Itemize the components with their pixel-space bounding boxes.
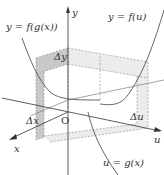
y-axis-arrow-icon [66,6,70,13]
label-outer: y = f(u) [107,11,146,22]
label-inner: u = g(x) [103,157,144,168]
label-delta-x: Δx [25,115,39,126]
delta-y-band-back [68,48,148,78]
label-delta-y: Δy [53,51,67,62]
curve-y-f-g-x [22,38,100,100]
u-axis-arrow-icon [154,127,162,132]
delta-u-floor-band [44,124,148,142]
label-composite: y = f(g(x)) [5,21,58,32]
label-delta-u: Δu [129,111,144,122]
back-plane-line [68,80,164,100]
label-axis-x: x [14,143,20,154]
chain-rule-diagram: y = f(g(x)) y = f(u) u = g(x) Δy Δx Δu O… [0,0,164,175]
label-axis-u: u [154,134,160,145]
label-origin: O [61,115,69,126]
x-axis-arrow-icon [9,134,17,140]
label-axis-y: y [71,7,78,18]
